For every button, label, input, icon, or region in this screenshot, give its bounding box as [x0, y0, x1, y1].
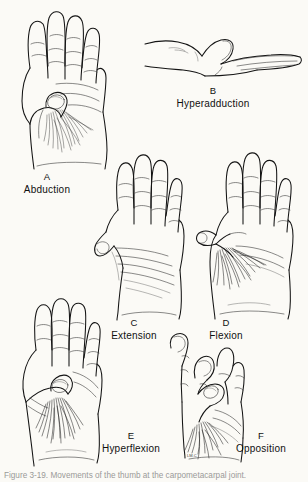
caption-panel-f: F Opposition [218, 431, 304, 454]
caption-panel-a: A Abduction [6, 172, 88, 195]
panel-d-flexion [188, 150, 300, 322]
hand-drawing-hyperadduction [145, 26, 305, 88]
hand-drawing-flexion [188, 150, 300, 322]
panel-c-extension [88, 152, 190, 322]
panel-a-letter: A [6, 172, 88, 183]
hand-drawing-extension [88, 152, 190, 322]
figure-plate: A Abduction B Hyperadd [0, 0, 308, 482]
figure-caption-text: Figure 3-19. Movements of the thumb at t… [0, 471, 308, 480]
panel-f-letter: F [218, 431, 304, 442]
hand-drawing-abduction [6, 6, 136, 176]
caption-panel-b: B Hyperadduction [148, 86, 278, 109]
panel-b-term: Hyperadduction [148, 98, 278, 109]
panel-a-abduction [6, 6, 136, 176]
artist-signature: LM.C [187, 453, 197, 458]
panel-b-hyperadduction [145, 26, 305, 88]
panel-f-term: Opposition [218, 443, 304, 454]
panel-a-term: Abduction [6, 184, 88, 195]
panel-b-letter: B [148, 86, 278, 97]
